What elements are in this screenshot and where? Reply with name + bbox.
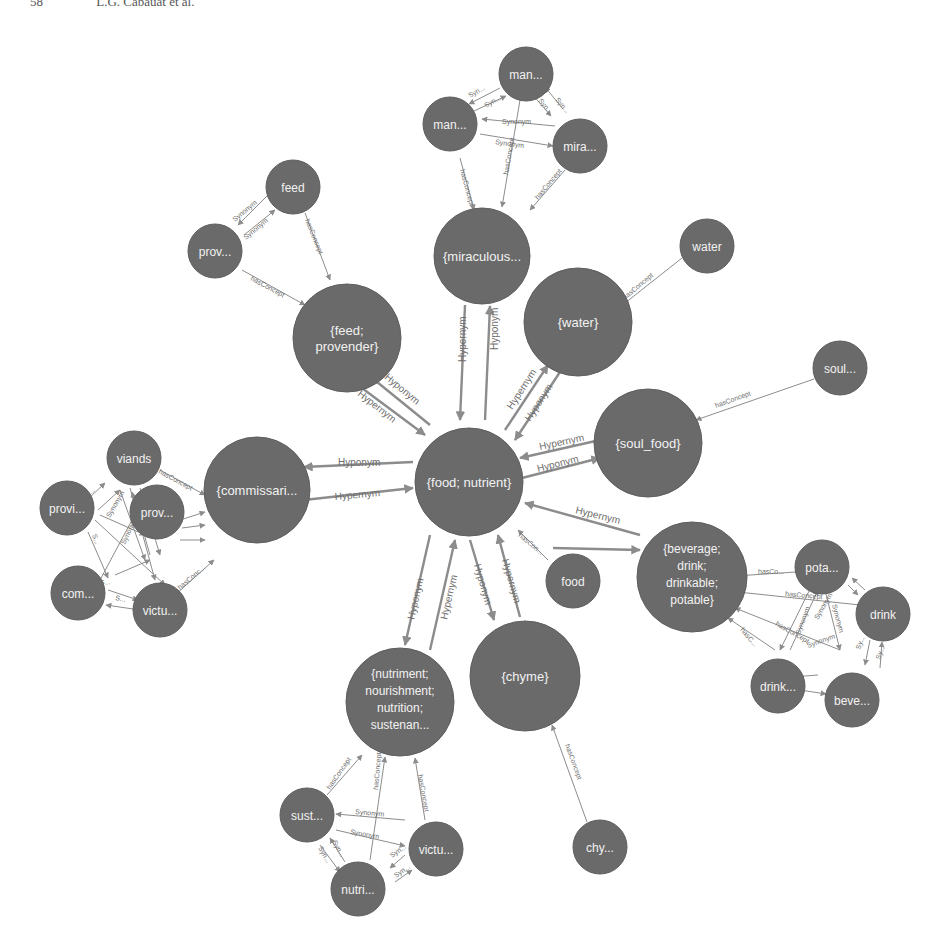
- node-word-man-1[interactable]: man...: [499, 47, 553, 101]
- node-word-man-2[interactable]: man...: [423, 97, 477, 151]
- node-word-beve[interactable]: beve...: [825, 673, 879, 727]
- svg-text:man...: man...: [433, 118, 466, 132]
- svg-text:{commissari...: {commissari...: [217, 483, 298, 498]
- svg-text:{water}: {water}: [558, 315, 599, 330]
- svg-text:{chyme}: {chyme}: [502, 669, 550, 684]
- svg-text:nutrition;: nutrition;: [377, 701, 423, 715]
- node-word-viands[interactable]: viands: [107, 431, 161, 485]
- svg-text:hasConcept: hasConcept: [416, 774, 430, 812]
- svg-text:hasConcept: hasConcept: [533, 167, 563, 201]
- svg-text:chy...: chy...: [586, 841, 614, 855]
- svg-text:Sy...: Sy...: [854, 635, 866, 650]
- svg-text:drink...: drink...: [760, 680, 796, 694]
- node-word-soul[interactable]: soul...: [813, 341, 867, 395]
- svg-text:Syn...: Syn...: [536, 97, 554, 116]
- svg-text:hasConcept: hasConcept: [372, 752, 383, 790]
- svg-text:Syn...: Syn...: [553, 96, 571, 115]
- svg-text:com...: com...: [62, 587, 95, 601]
- svg-text:nourishment;: nourishment;: [365, 684, 434, 698]
- node-word-nutri[interactable]: nutri...: [331, 862, 385, 916]
- svg-text:Hyponym: Hyponym: [405, 577, 425, 621]
- node-word-mira[interactable]: mira...: [553, 119, 607, 173]
- svg-text:mira...: mira...: [563, 140, 596, 154]
- svg-text:Synonym: Synonym: [231, 199, 259, 224]
- svg-text:water: water: [691, 240, 721, 254]
- svg-text:hasConcept: hasConcept: [303, 218, 324, 256]
- node-word-drink-2[interactable]: drink...: [751, 659, 805, 713]
- node-word-feed[interactable]: feed: [266, 160, 320, 214]
- node-synset-miraculous[interactable]: {miraculous...: [434, 208, 530, 304]
- svg-text:hasCo...: hasCo...: [758, 568, 784, 575]
- svg-text:{food; nutrient}: {food; nutrient}: [427, 475, 512, 490]
- svg-text:feed: feed: [281, 181, 304, 195]
- svg-text:hasConcept: hasConcept: [458, 168, 475, 206]
- node-synset-soul-food[interactable]: {soul_food}: [594, 389, 702, 497]
- svg-text:beve...: beve...: [834, 694, 870, 708]
- svg-text:Synonym: Synonym: [502, 118, 531, 126]
- svg-text:Hyponym: Hyponym: [536, 453, 580, 474]
- svg-text:provender}: provender}: [316, 339, 380, 354]
- svg-text:Hypernym: Hypernym: [334, 487, 380, 502]
- svg-text:Synonym: Synonym: [794, 605, 812, 635]
- node-word-com[interactable]: com...: [51, 566, 105, 620]
- node-word-drink-1[interactable]: drink: [856, 587, 910, 641]
- svg-text:Hyponym: Hyponym: [472, 563, 494, 607]
- svg-text:hasConcept: hasConcept: [325, 756, 353, 791]
- svg-text:hasCon...: hasCon...: [517, 531, 544, 556]
- node-word-water[interactable]: water: [680, 219, 734, 273]
- node-center-food-nutrient[interactable]: {food; nutrient}: [415, 428, 523, 536]
- node-synset-commissary[interactable]: {commissari...: [204, 437, 310, 543]
- svg-text:drink: drink: [870, 608, 897, 622]
- svg-text:drink;: drink;: [677, 559, 706, 573]
- svg-text:sustenan...: sustenan...: [371, 718, 430, 732]
- svg-text:Syn...: Syn...: [483, 94, 503, 110]
- svg-text:viands: viands: [117, 452, 152, 466]
- svg-text:pota...: pota...: [805, 561, 838, 575]
- svg-text:prov...: prov...: [199, 245, 231, 259]
- svg-text:Sy...: Sy...: [874, 645, 886, 660]
- svg-text:hasConcept: hasConcept: [563, 743, 583, 781]
- svg-text:sust...: sust...: [291, 809, 323, 823]
- svg-text:prov...: prov...: [141, 506, 173, 520]
- svg-text:soul...: soul...: [824, 362, 856, 376]
- svg-text:victu...: victu...: [419, 843, 454, 857]
- svg-text:Hypernym: Hypernym: [500, 558, 523, 605]
- svg-text:Hypernym: Hypernym: [457, 316, 468, 362]
- node-word-victu-1[interactable]: victu...: [133, 583, 187, 637]
- svg-text:Synonym: Synonym: [350, 828, 380, 841]
- svg-text:{miraculous...: {miraculous...: [443, 249, 521, 264]
- svg-text:S...: S...: [115, 594, 127, 603]
- node-word-chy[interactable]: chy...: [573, 820, 627, 874]
- svg-text:hasConcept: hasConcept: [249, 275, 286, 300]
- svg-text:Hyponym: Hyponym: [338, 457, 380, 468]
- node-synset-chyme[interactable]: {chyme}: [470, 621, 580, 731]
- svg-text:Syn...: Syn...: [330, 839, 346, 859]
- svg-text:nutri...: nutri...: [341, 883, 374, 897]
- node-word-pota[interactable]: pota...: [795, 540, 849, 594]
- node-synset-beverage[interactable]: {beverage; drink; drinkable; potable}: [637, 522, 747, 632]
- node-word-food[interactable]: food: [546, 554, 600, 608]
- node-word-sust[interactable]: sust...: [280, 788, 334, 842]
- svg-text:food: food: [561, 575, 584, 589]
- svg-text:victu...: victu...: [143, 604, 178, 618]
- svg-text:Synonym: Synonym: [806, 632, 836, 650]
- svg-text:Syn...: Syn...: [389, 843, 408, 860]
- svg-text:{feed;: {feed;: [330, 323, 363, 338]
- node-word-provi[interactable]: provi...: [40, 481, 94, 535]
- svg-text:{beverage;: {beverage;: [663, 542, 720, 556]
- node-synset-nutriment[interactable]: {nutriment; nourishment; nutrition; sust…: [346, 648, 454, 756]
- ontology-graph: Hypernym Hyponym Hypernym Hyponym Hypern…: [0, 0, 948, 948]
- svg-text:{nutriment;: {nutriment;: [371, 667, 428, 681]
- node-word-prov-2[interactable]: prov...: [130, 485, 184, 539]
- svg-text:provi...: provi...: [49, 502, 85, 516]
- svg-text:Synonym: Synonym: [242, 217, 270, 242]
- svg-text:potable}: potable}: [670, 593, 713, 607]
- svg-text:Syn...: Syn...: [316, 845, 332, 865]
- svg-text:Syn...: Syn...: [467, 84, 487, 100]
- node-word-victu-2[interactable]: victu...: [409, 822, 463, 876]
- node-word-prov-1[interactable]: prov...: [188, 224, 242, 278]
- node-synset-feed-provender[interactable]: {feed; provender}: [293, 284, 401, 392]
- svg-text:drinkable;: drinkable;: [666, 576, 718, 590]
- svg-text:hasConc...: hasConc...: [176, 564, 206, 591]
- node-synset-water[interactable]: {water}: [524, 268, 632, 376]
